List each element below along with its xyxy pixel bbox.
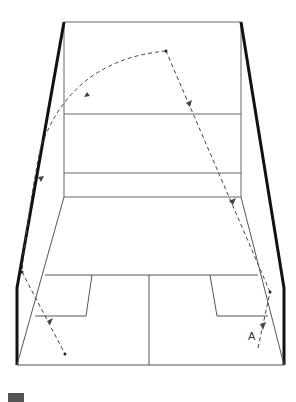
right-side-wall-outline	[241, 22, 284, 365]
arrow-icon	[84, 92, 90, 97]
floor-end-dot	[64, 353, 67, 356]
arrow-icon	[260, 322, 266, 330]
arrow-icon	[47, 318, 53, 325]
side-wall-hit-dot	[269, 291, 272, 294]
color-swatch	[8, 393, 24, 402]
arrow-icon	[186, 100, 192, 107]
trajectory-arrows	[38, 92, 266, 330]
left-service-box	[35, 275, 92, 316]
left-floor-edge	[17, 197, 64, 365]
front-wall-hit-dot	[165, 50, 168, 53]
side-wall-hit-dot	[21, 271, 24, 274]
arrow-icon	[38, 176, 44, 182]
left-side-wall-outline	[17, 22, 64, 365]
start-label: A	[248, 330, 255, 342]
right-service-box	[210, 275, 268, 316]
